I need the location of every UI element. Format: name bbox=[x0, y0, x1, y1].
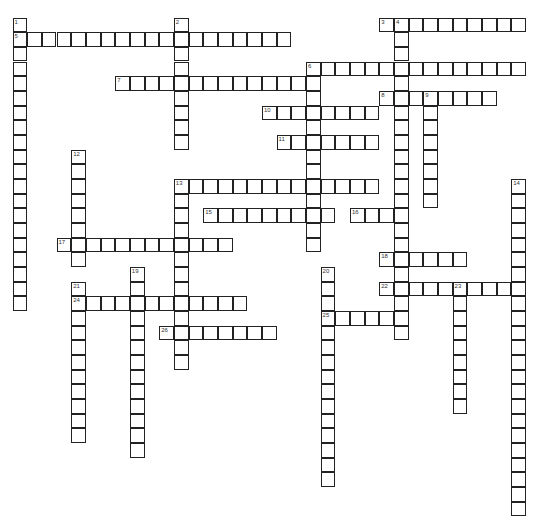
crossword-cell[interactable] bbox=[306, 76, 321, 91]
crossword-cell[interactable] bbox=[203, 326, 218, 341]
crossword-cell[interactable] bbox=[13, 62, 28, 77]
crossword-cell[interactable] bbox=[101, 296, 116, 311]
crossword-cell[interactable] bbox=[467, 62, 482, 77]
crossword-cell[interactable] bbox=[174, 91, 189, 106]
crossword-cell[interactable] bbox=[423, 164, 438, 179]
crossword-cell[interactable] bbox=[409, 252, 424, 267]
crossword-cell[interactable]: 4 bbox=[394, 18, 409, 33]
crossword-cell[interactable] bbox=[277, 106, 292, 121]
crossword-cell[interactable] bbox=[203, 238, 218, 253]
crossword-cell[interactable] bbox=[159, 296, 174, 311]
crossword-cell[interactable] bbox=[218, 32, 233, 47]
crossword-cell[interactable] bbox=[130, 311, 145, 326]
crossword-cell[interactable] bbox=[203, 179, 218, 194]
crossword-cell[interactable] bbox=[438, 62, 453, 77]
crossword-cell[interactable] bbox=[482, 282, 497, 297]
crossword-cell[interactable] bbox=[394, 164, 409, 179]
crossword-cell[interactable] bbox=[174, 311, 189, 326]
crossword-cell[interactable] bbox=[145, 296, 160, 311]
crossword-cell[interactable] bbox=[13, 91, 28, 106]
crossword-cell[interactable] bbox=[423, 252, 438, 267]
crossword-cell[interactable]: 2 bbox=[174, 18, 189, 33]
crossword-cell[interactable] bbox=[13, 135, 28, 150]
crossword-cell[interactable] bbox=[27, 32, 42, 47]
crossword-cell[interactable] bbox=[379, 311, 394, 326]
crossword-cell[interactable] bbox=[394, 150, 409, 165]
crossword-cell[interactable] bbox=[71, 238, 86, 253]
crossword-cell[interactable] bbox=[189, 238, 204, 253]
crossword-cell[interactable] bbox=[453, 62, 468, 77]
crossword-cell[interactable] bbox=[511, 267, 526, 282]
crossword-cell[interactable] bbox=[394, 267, 409, 282]
crossword-cell[interactable] bbox=[174, 252, 189, 267]
crossword-cell[interactable] bbox=[321, 208, 336, 223]
crossword-cell[interactable] bbox=[511, 326, 526, 341]
crossword-cell[interactable] bbox=[453, 340, 468, 355]
crossword-cell[interactable] bbox=[394, 311, 409, 326]
crossword-cell[interactable] bbox=[262, 208, 277, 223]
crossword-cell[interactable] bbox=[306, 179, 321, 194]
crossword-cell[interactable] bbox=[130, 340, 145, 355]
crossword-cell[interactable] bbox=[247, 32, 262, 47]
crossword-cell[interactable] bbox=[423, 194, 438, 209]
crossword-cell[interactable]: 3 bbox=[379, 18, 394, 33]
crossword-cell[interactable]: 17 bbox=[57, 238, 72, 253]
crossword-cell[interactable] bbox=[71, 340, 86, 355]
crossword-cell[interactable] bbox=[291, 208, 306, 223]
crossword-cell[interactable] bbox=[189, 296, 204, 311]
crossword-cell[interactable] bbox=[247, 208, 262, 223]
crossword-cell[interactable] bbox=[350, 179, 365, 194]
crossword-cell[interactable] bbox=[511, 355, 526, 370]
crossword-cell[interactable]: 16 bbox=[350, 208, 365, 223]
crossword-cell[interactable] bbox=[13, 223, 28, 238]
crossword-cell[interactable] bbox=[189, 179, 204, 194]
crossword-cell[interactable] bbox=[203, 32, 218, 47]
crossword-cell[interactable] bbox=[13, 106, 28, 121]
crossword-cell[interactable] bbox=[71, 370, 86, 385]
crossword-cell[interactable] bbox=[335, 179, 350, 194]
crossword-cell[interactable] bbox=[71, 208, 86, 223]
crossword-cell[interactable] bbox=[130, 32, 145, 47]
crossword-cell[interactable] bbox=[233, 208, 248, 223]
crossword-cell[interactable] bbox=[13, 76, 28, 91]
crossword-cell[interactable] bbox=[130, 238, 145, 253]
crossword-cell[interactable] bbox=[86, 238, 101, 253]
crossword-cell[interactable] bbox=[277, 179, 292, 194]
crossword-cell[interactable] bbox=[291, 179, 306, 194]
crossword-cell[interactable]: 5 bbox=[13, 32, 28, 47]
crossword-cell[interactable] bbox=[189, 76, 204, 91]
crossword-cell[interactable] bbox=[321, 399, 336, 414]
crossword-cell[interactable] bbox=[511, 472, 526, 487]
crossword-cell[interactable] bbox=[453, 91, 468, 106]
crossword-cell[interactable] bbox=[321, 428, 336, 443]
crossword-cell[interactable] bbox=[291, 106, 306, 121]
crossword-cell[interactable] bbox=[453, 296, 468, 311]
crossword-cell[interactable] bbox=[409, 282, 424, 297]
crossword-cell[interactable] bbox=[247, 179, 262, 194]
crossword-cell[interactable] bbox=[423, 150, 438, 165]
crossword-cell[interactable] bbox=[394, 106, 409, 121]
crossword-cell[interactable]: 23 bbox=[453, 282, 468, 297]
crossword-cell[interactable] bbox=[335, 106, 350, 121]
crossword-cell[interactable]: 24 bbox=[71, 296, 86, 311]
crossword-cell[interactable] bbox=[203, 76, 218, 91]
crossword-cell[interactable] bbox=[423, 106, 438, 121]
crossword-cell[interactable] bbox=[71, 399, 86, 414]
crossword-cell[interactable] bbox=[438, 252, 453, 267]
crossword-cell[interactable] bbox=[482, 91, 497, 106]
crossword-cell[interactable] bbox=[189, 326, 204, 341]
crossword-cell[interactable] bbox=[130, 443, 145, 458]
crossword-cell[interactable] bbox=[453, 311, 468, 326]
crossword-cell[interactable] bbox=[174, 47, 189, 62]
crossword-cell[interactable] bbox=[321, 135, 336, 150]
crossword-cell[interactable] bbox=[321, 443, 336, 458]
crossword-cell[interactable] bbox=[101, 32, 116, 47]
crossword-cell[interactable] bbox=[394, 47, 409, 62]
crossword-cell[interactable] bbox=[115, 32, 130, 47]
crossword-cell[interactable]: 8 bbox=[379, 91, 394, 106]
crossword-cell[interactable]: 18 bbox=[379, 252, 394, 267]
crossword-cell[interactable] bbox=[262, 326, 277, 341]
crossword-cell[interactable] bbox=[365, 106, 380, 121]
crossword-cell[interactable] bbox=[174, 76, 189, 91]
crossword-cell[interactable] bbox=[511, 370, 526, 385]
